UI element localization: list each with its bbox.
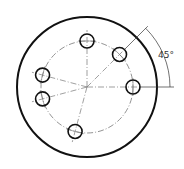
center-line xyxy=(72,87,87,142)
center-line xyxy=(32,72,87,87)
center-lines xyxy=(32,30,140,142)
center-line xyxy=(32,87,87,102)
flange-drawing: 45° xyxy=(0,0,184,169)
dimension-label: 45° xyxy=(158,50,174,60)
center-line xyxy=(87,50,124,87)
